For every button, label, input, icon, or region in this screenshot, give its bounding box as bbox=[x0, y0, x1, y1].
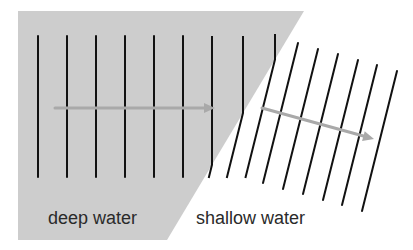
deep-water-region bbox=[18, 11, 304, 240]
shallow-water-direction-arrow-head bbox=[362, 131, 374, 141]
shallow-water-direction-arrow-shaft bbox=[262, 108, 363, 136]
wavefront-shallow bbox=[362, 71, 397, 211]
shallow-water-label: shallow water bbox=[196, 208, 305, 228]
deep-water-label: deep water bbox=[48, 208, 137, 228]
refraction-diagram: deep water shallow water bbox=[0, 0, 413, 250]
